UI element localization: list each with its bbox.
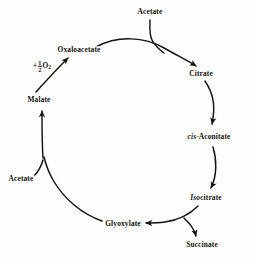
arrow-acetate-top-infeed <box>150 20 164 53</box>
node-label-isocitrate: Isocitrate <box>189 194 222 201</box>
citrate-suffix: citrate <box>200 193 222 202</box>
oxygen-subscript: 2 <box>48 64 51 70</box>
node-label-acetate-top: Acetate <box>137 8 164 15</box>
node-label-citrate: Citrate <box>188 70 214 77</box>
node-label-malate: Malate <box>26 96 51 103</box>
arrow-cis-aconitate-to-isocitrate <box>211 147 216 188</box>
arrow-to-malate <box>42 111 43 158</box>
oxygen-annotation: +12O2 <box>33 60 51 72</box>
glyoxylate-cycle-diagram: Acetate Oxaloacetate Citrate cis-Aconita… <box>0 0 253 259</box>
arrow-oxaloacetate-to-citrate <box>96 39 196 66</box>
node-label-oxaloacetate: Oxaloacetate <box>57 46 102 53</box>
iso-prefix: Iso <box>190 193 200 202</box>
node-label-succinate: Succinate <box>185 241 219 248</box>
plus-sign: + <box>33 61 37 70</box>
arrow-isocitrate-to-glyoxylate <box>146 206 198 223</box>
aconitate-suffix: Aconitate <box>199 132 231 141</box>
arrow-glyoxylate-to-malate <box>44 157 102 221</box>
arrow-acetate-left-infeed <box>34 160 43 176</box>
node-label-glyoxylate: Glyoxylate <box>104 220 142 227</box>
node-label-acetate-left: Acetate <box>8 175 35 182</box>
cis-prefix: cis- <box>187 132 198 141</box>
arrow-citrate-to-cis-aconitate <box>205 81 214 124</box>
node-label-cis-aconitate: cis-Aconitate <box>186 133 231 140</box>
arrow-isocitrate-to-succinate <box>184 218 196 236</box>
